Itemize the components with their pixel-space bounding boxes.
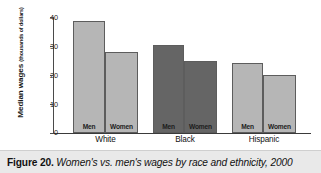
figure-caption: Figure 20. Women's vs. men's wages by ra… [0,157,292,168]
figure-caption-title: Women's vs. men's wages by race and ethn… [56,157,292,168]
bar-label-black-men: Men [154,123,183,130]
category-label-hispanic: Hispanic [232,135,296,144]
bar-white-men[interactable]: Men [73,21,105,134]
bar-label-hispanic-women: Women [264,123,295,130]
bar-black-men[interactable]: Men [153,45,184,133]
figure-container: Median wages (thousands of dollars) 40 3… [0,0,321,173]
bar-label-hispanic-men: Men [233,123,262,130]
bar-black-women[interactable]: Women [184,61,217,133]
category-label-black: Black [153,135,217,144]
bar-hispanic-women[interactable]: Women [263,75,296,133]
bars-layer: Men Women Men Women Men Women [0,0,321,150]
bar-label-white-men: Men [74,123,104,130]
bar-hispanic-men[interactable]: Men [232,63,263,133]
bar-label-black-women: Women [185,123,216,130]
bar-chart: Median wages (thousands of dollars) 40 3… [0,0,321,150]
bar-label-white-women: Women [106,123,137,130]
figure-caption-number: Figure 20. [7,157,54,168]
figure-caption-bar: Figure 20. Women's vs. men's wages by ra… [0,150,321,173]
bar-white-women[interactable]: Women [105,52,138,133]
category-label-white: White [73,135,138,144]
